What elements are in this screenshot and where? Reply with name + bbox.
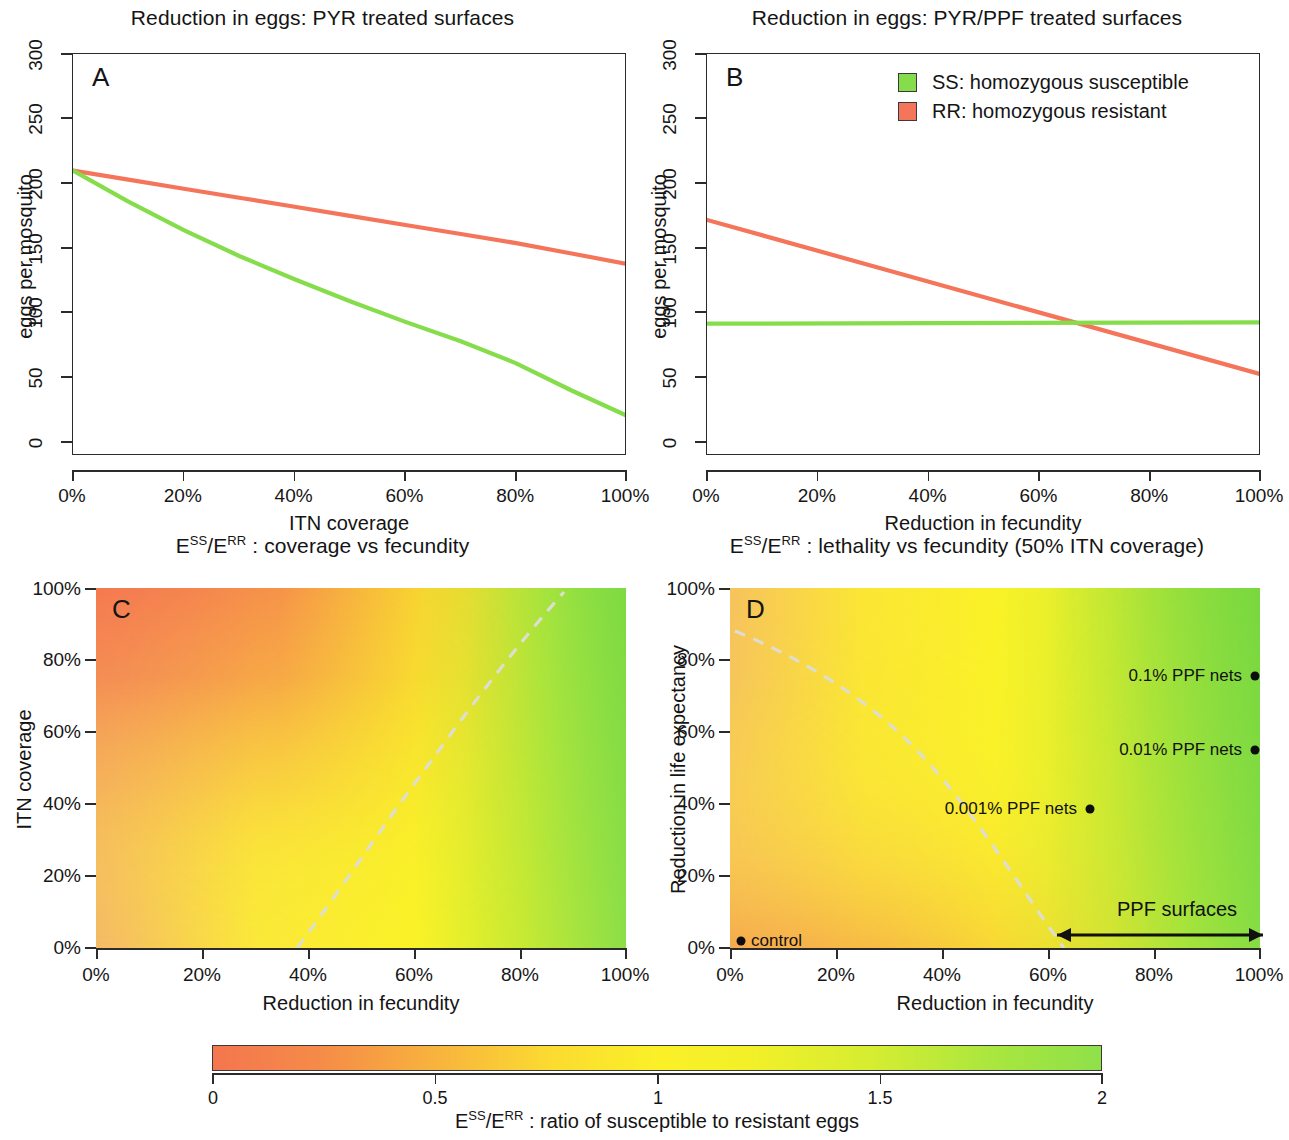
panel-a-ytick-label-300: 300 [25,35,47,75]
panel-d-title-e1: E [730,534,744,557]
panel-d-xtick-label-0: 0% [700,964,760,986]
panel-c-xtick-0 [96,948,98,959]
panel-b-ytick-200 [695,182,706,184]
panel-d-range-arrow [1045,924,1275,946]
panel-c-plot-area [96,588,626,948]
panel-d-xtick-label-80: 80% [1124,964,1184,986]
panel-d-range-label: PPF surfaces [1117,898,1237,921]
panel-c-xtick-60 [414,948,416,959]
panel-a-xtick-label-0: 0% [42,485,102,507]
panel-d-xlabel: Reduction in fecundity [730,992,1260,1015]
panel-c-title-slash: /E [207,534,227,557]
panel-c-ytick-60 [85,731,96,733]
panel-b-xtick-20 [817,470,819,481]
panel-c-xtick-100 [625,948,627,959]
panel-a-ytick-100 [61,311,72,313]
panel-d-xtick-label-20: 20% [806,964,866,986]
panel-b-ytick-300 [695,53,706,55]
panel-a-ytick-0 [61,441,72,443]
panel-c-ytick-40 [85,803,96,805]
panel-c-xtick-20 [202,948,204,959]
legend-swatch-ss [898,73,917,92]
panel-c-xtick-40 [308,948,310,959]
panel-b: Reduction in eggs: PYR/PPF treated surfa… [645,0,1289,520]
panel-a-ytick-label-0: 0 [25,423,47,463]
panel-c-xtick-label-0: 0% [66,964,126,986]
panel-b-ytick-150 [695,247,706,249]
panel-c-ytick-80 [85,659,96,661]
legend-label-rr: RR: homozygous resistant [932,100,1167,123]
panel-c-xtick-80 [520,948,522,959]
panel-d-ylabel: Reduction in life expectancy [667,620,690,920]
colorbar-tick-0 [212,1073,214,1084]
panel-d-point-label-0-1pct: 0.1% PPF nets [1129,666,1242,686]
panel-d-xtick-60 [1048,948,1050,959]
colorbar-title-rest: : ratio of susceptible to resistant eggs [523,1110,859,1132]
panel-a-curves [73,54,626,455]
panel-a-ytick-250 [61,117,72,119]
panel-b-letter: B [726,62,743,93]
colorbar-title-e1: E [455,1110,468,1132]
panel-d-title-rest: : lethality vs fecundity (50% ITN covera… [801,534,1205,557]
panel-a-ytick-50 [61,376,72,378]
figure-canvas: Reduction in eggs: PYR treated surfaces … [0,0,1289,1140]
panel-d-title-sup-rr: RR [782,533,801,548]
panel-c-ytick-0 [85,947,96,949]
panel-d-point-label-0-001pct: 0.001% PPF nets [945,799,1077,819]
panel-b-ytick-label-50: 50 [659,358,681,398]
panel-b-xtick-label-0: 0% [676,485,736,507]
panel-b-ytick-50 [695,376,706,378]
panel-b-ytick-100 [695,311,706,313]
panel-d-point-0-001pct [1086,805,1095,814]
panel-d-point-0-01pct [1250,746,1259,755]
panel-a-xtick-label-40: 40% [264,485,324,507]
panel-d-ytick-60 [719,731,730,733]
colorbar-tick-0-5 [435,1073,437,1084]
legend-item-rr: RR: homozygous resistant [898,97,1189,126]
panel-d-xaxis [730,948,1260,950]
colorbar-title-slash: /E [486,1110,505,1132]
panel-b-ytick-label-0: 0 [659,423,681,463]
panel-b-legend: SS: homozygous susceptible RR: homozygou… [898,68,1189,126]
panel-c-ytick-20 [85,875,96,877]
panel-d-ytick-20 [719,875,730,877]
panel-a-xtick-0 [72,470,74,481]
panel-d-xtick-label-40: 40% [912,964,972,986]
panel-c-xaxis [96,948,626,950]
panel-a-ytick-label-250: 250 [25,99,47,139]
colorbar-tick-1-5 [880,1073,882,1084]
colorbar-title: ESS/ERR : ratio of susceptible to resist… [455,1110,859,1133]
panel-b-xtick-label-40: 40% [898,485,958,507]
panel-d-title: ESS/ERR : lethality vs fecundity (50% IT… [645,534,1289,558]
panel-a: Reduction in eggs: PYR treated surfaces … [0,0,645,520]
panel-d-ytick-label-100: 100% [651,578,715,600]
panel-a-xtick-20 [183,470,185,481]
panel-d-xtick-40 [942,948,944,959]
panel-d-point-0-1pct [1250,672,1259,681]
panel-a-ytick-150 [61,247,72,249]
panel-b-ytick-label-250: 250 [659,99,681,139]
panel-b-ytick-0 [695,441,706,443]
panel-d-point-label-0-01pct: 0.01% PPF nets [1119,740,1242,760]
colorbar-gradient [212,1045,1102,1071]
panel-b-xtick-0 [706,470,708,481]
panel-c-ytick-label-80: 80% [25,649,81,671]
panel-a-xtick-label-80: 80% [485,485,545,507]
panel-c-xtick-label-20: 20% [172,964,232,986]
panel-c-letter: C [112,594,131,625]
colorbar-title-sup-ss: SS [468,1108,485,1123]
panel-c-heatmap [96,588,626,948]
panel-a-xtick-label-60: 60% [374,485,434,507]
colorbar-tick-label-0-5: 0.5 [422,1088,447,1109]
panel-c-xtick-label-40: 40% [278,964,338,986]
panel-b-xtick-label-60: 60% [1008,485,1068,507]
panel-a-xaxis [72,470,626,472]
panel-b-xtick-40 [928,470,930,481]
panel-a-ytick-label-50: 50 [25,358,47,398]
panel-d-xtick-label-100: 100% [1224,964,1289,986]
panel-d-xtick-0 [730,948,732,959]
panel-b-title: Reduction in eggs: PYR/PPF treated surfa… [645,6,1289,30]
panel-c-title-sup-ss: SS [190,533,208,548]
panel-b-ytick-250 [695,117,706,119]
panel-c-ylabel: ITN coverage [13,670,36,870]
